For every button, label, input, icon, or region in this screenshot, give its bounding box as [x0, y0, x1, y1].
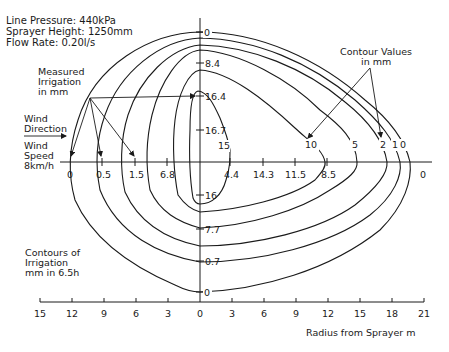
contour-label-5: 5 [352, 139, 358, 150]
v-label-top-0: 0 [204, 27, 210, 38]
x-tick-12-left: 12 [66, 308, 78, 319]
sprayer-height-label: Sprayer Height: 1250mm [6, 26, 133, 37]
contour-values-label-2: in mm [361, 56, 391, 67]
w-label-8-5: 8.5 [321, 169, 336, 180]
w-label-0-right: 0 [420, 169, 426, 180]
x-tick-0: 0 [197, 308, 203, 319]
w-label-11-5: 11.5 [285, 169, 306, 180]
contour-label-10: 10 [305, 139, 317, 150]
measured-irrigation-arrows [71, 96, 195, 156]
v-label-16-4: 16.4 [205, 91, 226, 102]
line-pressure-label: Line Pressure: 440kPa [6, 15, 116, 26]
x-tick-15-right: 15 [354, 308, 366, 319]
w-label-1-5: 1.5 [129, 169, 144, 180]
contour-label-15: 15 [218, 140, 230, 151]
w-label-0-5: 0.5 [96, 169, 111, 180]
v-label-16: 16 [205, 190, 217, 201]
wind-speed-label-3: 8km/h [24, 160, 54, 171]
w-label-14-3: 14.3 [253, 169, 274, 180]
radius-axis-ticks [40, 298, 424, 302]
x-tick-6-left: 6 [133, 308, 139, 319]
x-tick-9-right: 9 [293, 308, 299, 319]
measured-irrigation-label-3: in mm [38, 86, 68, 97]
x-tick-12-right: 12 [322, 308, 334, 319]
irrigation-contour-diagram: Line Pressure: 440kPa Sprayer Height: 12… [0, 0, 449, 352]
x-tick-21-right: 21 [418, 308, 430, 319]
contour-5 [147, 50, 357, 228]
v-label-bottom-0: 0 [204, 287, 210, 298]
w-label-6-8: 6.8 [160, 169, 175, 180]
v-label-7-7: 7.7 [205, 224, 220, 235]
v-label-8-4: 8.4 [205, 58, 220, 69]
x-tick-3-right: 3 [229, 308, 235, 319]
flow-rate-label: Flow Rate: 0.20l/s [6, 37, 95, 48]
wind-direction-label-2: Direction [24, 123, 67, 134]
v-label-0-7: 0.7 [205, 256, 220, 267]
x-axis-label: Radius from Sprayer m [306, 327, 415, 338]
contour-label-1: 1 [392, 139, 398, 150]
contour-label-0: 0 [400, 139, 406, 150]
v-label-16-7: 16.7 [205, 125, 226, 136]
x-tick-6-right: 6 [261, 308, 267, 319]
x-tick-18-right: 18 [386, 308, 398, 319]
x-tick-3-left: 3 [165, 308, 171, 319]
contour-values-arrows [308, 68, 381, 138]
contour-label-2: 2 [380, 139, 386, 150]
w-label-4-4: 4.4 [224, 169, 239, 180]
x-tick-9-left: 9 [101, 308, 107, 319]
contour-2 [122, 45, 388, 246]
x-tick-15-left: 15 [34, 308, 46, 319]
contours-of-irrigation-label-3: mm in 6.5h [25, 267, 79, 278]
w-label-0-left: 0 [67, 169, 73, 180]
